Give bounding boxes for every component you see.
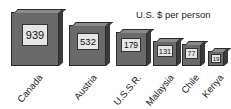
category-label-chile: Chile (179, 72, 201, 96)
value-label: 532 (77, 33, 99, 50)
bar-chile: 77 (182, 44, 201, 66)
value-label: 77 (185, 48, 198, 59)
value-label: 939 (22, 24, 48, 46)
bar-austria: 532 (69, 25, 106, 66)
bar-canada: 939 (11, 12, 59, 66)
category-label-austria: Austria (72, 72, 99, 102)
bar-kenya: 19 (208, 51, 224, 66)
category-label-malaysia: Malaysia (143, 72, 176, 108)
category-label-ussr: U.S.S.R. (111, 72, 143, 107)
chart-title: U.S. $ per person (136, 9, 210, 20)
category-label-canada: Canada (15, 72, 45, 105)
bar-malaysia: 131 (153, 41, 177, 66)
category-label-kenya: Kenya (200, 72, 226, 100)
value-label: 131 (157, 45, 173, 57)
value-label: 179 (121, 38, 141, 52)
bar-ussr: 179 (116, 32, 147, 66)
value-label: 19 (211, 54, 221, 63)
